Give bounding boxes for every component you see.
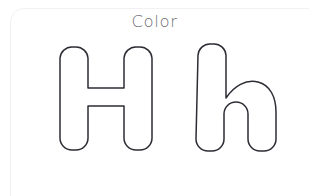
uppercase-letter-h-glyph: [52, 38, 160, 162]
letters-area: [0, 0, 309, 196]
uppercase-letter-h-outline: [60, 47, 152, 150]
lowercase-letter-h-glyph: [190, 34, 282, 160]
worksheet-page: Color: [0, 0, 309, 196]
lowercase-letter-h-outline: [196, 44, 276, 151]
